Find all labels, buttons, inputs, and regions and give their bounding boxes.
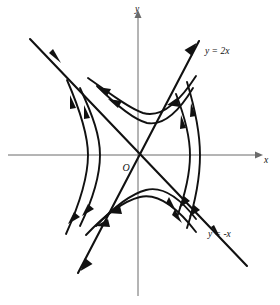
asymptote-unstable-label: y = 2x (204, 46, 230, 56)
y-axis-label: y (134, 4, 140, 14)
origin-label: O (122, 162, 129, 173)
x-axis-label: x (263, 155, 269, 165)
trajectory-top-outer (88, 76, 196, 114)
trajectory-left-outer-arrow-lower (68, 212, 80, 224)
trajectory-left-inner-arrow-lower (82, 204, 94, 216)
x-axis-arrowhead (255, 152, 263, 159)
phase-portrait-figure: x y O y = 2x y = -x (0, 0, 280, 305)
phase-portrait-canvas: x y O y = 2x y = -x (0, 0, 280, 305)
trajectory-bottom-inner-arrow-right (166, 197, 176, 211)
asymptote-stable-label: y = -x (207, 229, 232, 239)
